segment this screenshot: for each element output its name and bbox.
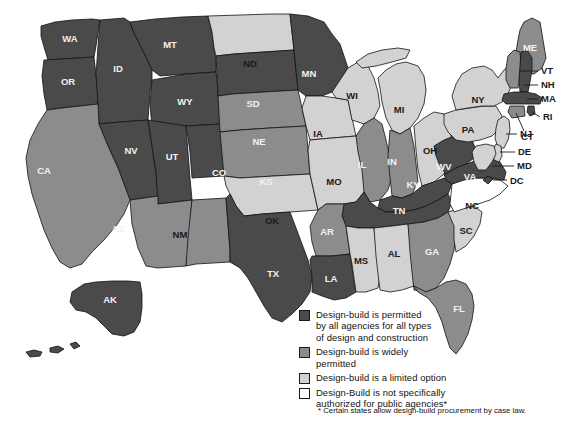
- callout-DE: DE: [518, 146, 531, 157]
- state-VT[interactable]: [506, 50, 521, 88]
- legend-item-permitted-all[interactable]: Design-build is permittedby all agencies…: [299, 309, 561, 343]
- callout-MA: MA: [541, 93, 556, 104]
- callout-MD: MD: [517, 160, 532, 171]
- state-TX[interactable]: [226, 194, 312, 322]
- callout-VT: VT: [541, 65, 553, 76]
- legend-swatch-limited-option: [299, 373, 310, 384]
- legend-label-limited-option: Design-build is a limited option: [316, 372, 446, 383]
- state-NE[interactable]: [218, 90, 306, 132]
- state-NC[interactable]: [450, 178, 508, 212]
- state-WY[interactable]: [150, 72, 220, 128]
- legend-swatch-permitted-all: [299, 310, 310, 321]
- state-PA[interactable]: [444, 106, 502, 142]
- state-SD[interactable]: [216, 50, 298, 96]
- state-NM[interactable]: [186, 198, 230, 266]
- state-GA[interactable]: [408, 212, 456, 292]
- legend-swatch-widely-permitted: [299, 347, 310, 358]
- callout-RI: RI: [543, 111, 553, 122]
- state-AK-aleutians[interactable]: [26, 342, 80, 357]
- state-AZ[interactable]: [130, 196, 192, 268]
- legend-item-limited-option[interactable]: Design-build is a limited option: [299, 372, 561, 384]
- state-RI[interactable]: [527, 106, 535, 116]
- legend-item-widely-permitted[interactable]: Design-build is widelypermitted: [299, 346, 561, 369]
- legend-swatch-not-authorized: [299, 388, 310, 399]
- legend-label-widely-permitted: Design-build is widelypermitted: [316, 346, 408, 369]
- state-IN[interactable]: [388, 128, 418, 198]
- callout-NJ: NJ: [520, 128, 532, 139]
- state-shapes-group: [26, 14, 546, 357]
- footnote: * Certain states allow design-build proc…: [318, 406, 568, 416]
- state-IA[interactable]: [302, 96, 356, 140]
- state-WA[interactable]: [41, 19, 100, 60]
- callout-NH: NH: [541, 79, 555, 90]
- state-CT[interactable]: [508, 106, 525, 118]
- state-ND[interactable]: [208, 14, 294, 56]
- callout-DC: DC: [510, 175, 524, 186]
- legend: Design-build is permittedby all agencies…: [299, 309, 561, 413]
- state-OR[interactable]: [42, 57, 98, 110]
- state-AK[interactable]: [70, 281, 142, 336]
- state-MA[interactable]: [502, 92, 542, 104]
- state-LA[interactable]: [310, 254, 356, 300]
- state-KS[interactable]: [220, 126, 310, 178]
- state-AL[interactable]: [374, 224, 414, 292]
- legend-label-permitted-all: Design-build is permittedby all agencies…: [316, 309, 431, 343]
